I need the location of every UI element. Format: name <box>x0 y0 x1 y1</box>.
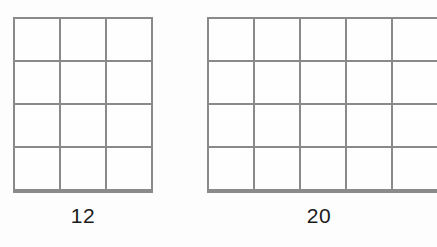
grid-cell <box>255 19 299 60</box>
grid-cell <box>107 62 151 103</box>
grid-cell <box>61 19 105 60</box>
grid-cell <box>209 105 253 146</box>
array-grid-20 <box>207 17 437 193</box>
grid-cell <box>347 19 391 60</box>
grid-cell <box>347 148 391 189</box>
grid-cell <box>301 62 345 103</box>
grid-cell <box>15 105 59 146</box>
array-label-12: 12 <box>13 205 153 226</box>
grid-cell <box>255 148 299 189</box>
grid-cell <box>61 105 105 146</box>
grid-cell <box>301 19 345 60</box>
grid-cell <box>107 148 151 189</box>
grid-cell <box>61 148 105 189</box>
grid-cell <box>393 148 437 189</box>
grid-cell <box>255 105 299 146</box>
grid-cell <box>15 19 59 60</box>
grid-cell <box>209 62 253 103</box>
grid-cell <box>15 62 59 103</box>
grid-cell <box>107 19 151 60</box>
grid-cell <box>347 105 391 146</box>
grid-cell <box>301 105 345 146</box>
grid-cell <box>393 62 437 103</box>
array-figure-12: 12 <box>13 17 153 193</box>
grid-cell <box>209 148 253 189</box>
grid-cell <box>393 105 437 146</box>
grid-cell <box>301 148 345 189</box>
array-grid-12 <box>13 17 153 193</box>
grid-cell <box>347 62 391 103</box>
grid-cell <box>209 19 253 60</box>
grid-cell <box>61 62 105 103</box>
array-label-20: 20 <box>207 205 431 226</box>
grid-cell <box>15 148 59 189</box>
grid-cell <box>255 62 299 103</box>
array-figure-20: 20 <box>207 17 437 193</box>
grid-cell <box>107 105 151 146</box>
grid-cell <box>393 19 437 60</box>
